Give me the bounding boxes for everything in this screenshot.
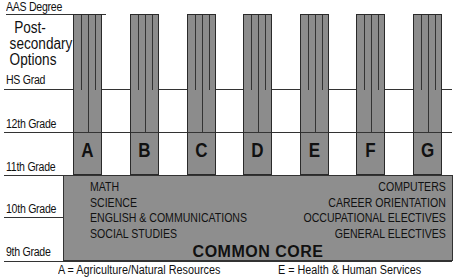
subject-computers: COMPUTERS — [304, 180, 446, 196]
cluster-column-b: B — [130, 14, 159, 175]
common-core-title: COMMON CORE — [64, 243, 452, 261]
cluster-letter: G — [416, 139, 439, 162]
legend-left: A = Agriculture/Natural Resources — [58, 263, 220, 277]
subject-occupational-electives: OCCUPATIONAL ELECTIVES — [304, 211, 446, 227]
subject-career-orientation: CAREER ORIENTATION — [304, 196, 446, 212]
cluster-column-a: A — [73, 14, 102, 175]
level-label-9th: 9th Grade — [6, 245, 51, 259]
cluster-letter: C — [190, 139, 213, 162]
cluster-column-f: F — [356, 14, 385, 175]
cluster-letter: D — [246, 139, 269, 162]
cluster-letter: A — [76, 139, 99, 162]
common-core-box: MATH SCIENCE ENGLISH & COMMUNICATIONS SO… — [63, 175, 453, 261]
cluster-column-c: C — [187, 14, 216, 175]
level-label-hs-grad: HS Grad — [6, 73, 45, 87]
level-label-10th: 10th Grade — [6, 202, 56, 216]
postsecondary-label: Post-secondaryOptions — [10, 20, 51, 68]
subject-general-electives: GENERAL ELECTIVES — [304, 227, 446, 243]
level-line-9th — [4, 261, 452, 262]
cluster-letter: E — [303, 139, 326, 162]
cluster-column-g: G — [413, 14, 442, 175]
level-label-12th: 12th Grade — [6, 117, 56, 131]
subject-math: MATH — [90, 180, 247, 196]
legend-right: E = Health & Human Services — [278, 263, 421, 277]
level-line-10th — [4, 217, 64, 218]
cluster-column-e: E — [300, 14, 329, 175]
level-line-11th — [4, 175, 64, 176]
subject-science: SCIENCE — [90, 196, 247, 212]
cluster-column-d: D — [243, 14, 272, 175]
level-label-aas: AAS Degree — [6, 0, 62, 14]
subject-social-studies: SOCIAL STUDIES — [90, 227, 247, 243]
core-subjects-left: MATH SCIENCE ENGLISH & COMMUNICATIONS SO… — [90, 180, 247, 242]
subject-english: ENGLISH & COMMUNICATIONS — [90, 211, 247, 227]
level-label-11th: 11th Grade — [6, 160, 55, 174]
cluster-letter: F — [359, 139, 382, 162]
core-subjects-right: COMPUTERS CAREER ORIENTATION OCCUPATIONA… — [304, 180, 446, 242]
cluster-letter: B — [133, 139, 156, 162]
